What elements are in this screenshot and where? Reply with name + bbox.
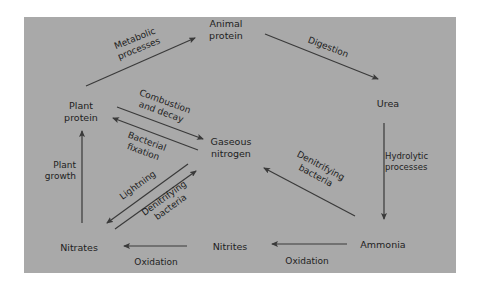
node-urea: Urea bbox=[377, 98, 399, 110]
node-plant-protein: Plant protein bbox=[64, 100, 98, 124]
node-animal-protein: Animal protein bbox=[209, 18, 243, 42]
label-hydrolytic: Hydrolytic processes bbox=[385, 151, 445, 173]
label-plant-growth: Plant growth bbox=[36, 160, 76, 182]
node-ammonia: Ammonia bbox=[360, 239, 405, 251]
node-gaseous-nitrogen: Gaseous nitrogen bbox=[211, 136, 252, 160]
label-oxidation-right: Oxidation bbox=[272, 256, 342, 267]
node-nitrates: Nitrates bbox=[60, 242, 98, 254]
node-nitrites: Nitrites bbox=[213, 241, 248, 253]
label-oxidation-left: Oxidation bbox=[121, 257, 191, 268]
